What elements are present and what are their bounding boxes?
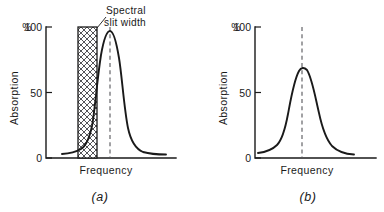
- chart-panel-a: 100 50 0 % Absorption Spectral slit widt…: [0, 0, 192, 212]
- panel-a-y-unit: %: [22, 21, 31, 33]
- panel-b-y-axis-title: Absorption: [217, 71, 229, 125]
- panel-b-svg: 100 50 0 % Absorption Frequency (b): [192, 0, 384, 212]
- panel-b-absorption-curve: [258, 68, 354, 154]
- panel-a-svg: 100 50 0 % Absorption Spectral slit widt…: [0, 0, 192, 212]
- panel-b-x-axis-title: Frequency: [280, 164, 334, 176]
- panel-b-caption: (b): [300, 190, 317, 204]
- panel-a-x-axis-title: Frequency: [79, 164, 133, 176]
- panel-b-axes: [255, 27, 376, 158]
- chart-panel-b: 100 50 0 % Absorption Frequency (b): [192, 0, 384, 212]
- panel-a-y-axis-title: Absorption: [8, 71, 20, 125]
- panel-b-ytick-label-0: 0: [245, 152, 251, 164]
- panel-a-caption: (a): [92, 190, 109, 204]
- panel-a-ytick-label-50: 50: [30, 87, 42, 99]
- panel-b-ytick-label-50: 50: [239, 87, 251, 99]
- panel-a-axes: [46, 27, 176, 158]
- figure-absorption-spectra: 100 50 0 % Absorption Spectral slit widt…: [0, 0, 384, 212]
- panel-a-ytick-label-0: 0: [36, 152, 42, 164]
- spectral-slit-width-label-line2: slit width: [104, 17, 146, 28]
- panel-b-y-unit: %: [231, 21, 240, 33]
- spectral-slit-width-label-line1: Spectral: [106, 5, 146, 16]
